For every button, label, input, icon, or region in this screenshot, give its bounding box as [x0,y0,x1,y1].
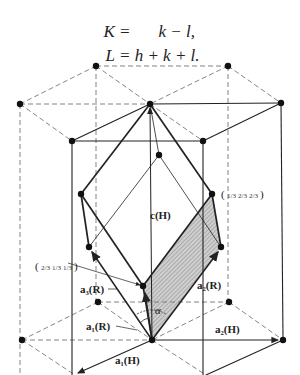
label-c-hex: c(H) [150,209,171,222]
svg-text:(: ( [35,260,39,273]
label-a2-hex: a₂(H) [215,323,240,336]
svg-text:(: ( [221,188,225,201]
svg-text:1/3: 1/3 [63,264,72,272]
svg-text:): ) [74,260,78,273]
label-alpha: α [155,304,161,316]
svg-text:): ) [260,188,264,201]
svg-text:1/3: 1/3 [52,264,61,272]
label-a3-rhomb: a₃(R) [80,283,104,296]
label-a2-rhomb: a₂(R) [197,279,221,292]
label-a1-hex: a₁(H) [115,354,140,367]
svg-text:2/3: 2/3 [238,192,247,200]
hexagonal-rhombohedral-cell-diagram: c(H) a₂(R) a₃(R) a₁(R) a₂(H) a₁(H) α ( 1… [0,0,300,375]
svg-text:2/3: 2/3 [41,264,50,272]
label-a1-rhomb: a₁(R) [86,320,110,333]
svg-text:1/3: 1/3 [227,192,236,200]
svg-text:2/3: 2/3 [249,192,258,200]
label-point-right: ( 1/3 2/3 2/3 ) [221,188,264,201]
leader-a1 [116,326,137,330]
